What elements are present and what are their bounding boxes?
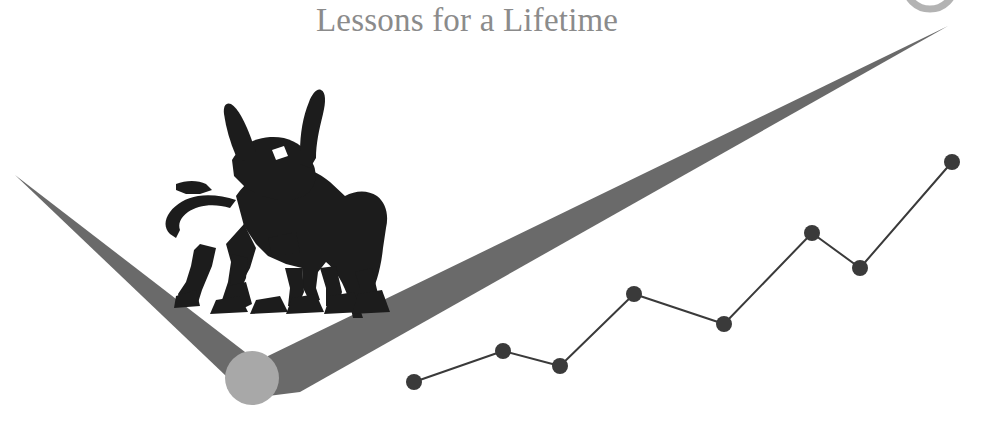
chart-data-point xyxy=(944,154,960,170)
chart-data-point xyxy=(552,358,568,374)
chart-data-point xyxy=(716,316,732,332)
chart-data-point xyxy=(626,286,642,302)
pivot-circle xyxy=(225,351,279,405)
logo-canvas xyxy=(0,0,992,422)
chart-data-point xyxy=(406,374,422,390)
chart-data-point xyxy=(852,260,868,276)
page-background xyxy=(0,0,992,422)
page-title: Lessons for a Lifetime xyxy=(316,0,618,40)
chart-data-point xyxy=(495,343,511,359)
chart-data-point xyxy=(804,225,820,241)
